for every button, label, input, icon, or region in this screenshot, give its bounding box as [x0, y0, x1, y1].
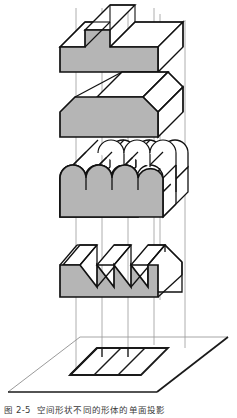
figure-caption-label: 图 2-5: [4, 403, 31, 415]
solid-1-stepped-t-block: [60, 5, 183, 72]
figure-caption: 图 2-5 空间形状不同的形体的单面投影: [0, 403, 237, 418]
s4-front-face: [60, 265, 158, 297]
solid-4-sawtooth-roof-prism: [60, 245, 182, 297]
s3-front-silhouette: [60, 165, 163, 217]
solid-3-triple-arch-vault: [60, 140, 188, 217]
s3-recede-1: [73, 152, 86, 165]
figure-container: 图 2-5 空间形状不同的形体的单面投影: [0, 0, 237, 418]
s2-front-face: [60, 97, 158, 137]
solid-2-trapezoidal-prism: [60, 72, 183, 137]
figure-caption-text: 空间形状不同的形体的单面投影: [37, 403, 166, 415]
technical-drawing: [0, 0, 237, 418]
